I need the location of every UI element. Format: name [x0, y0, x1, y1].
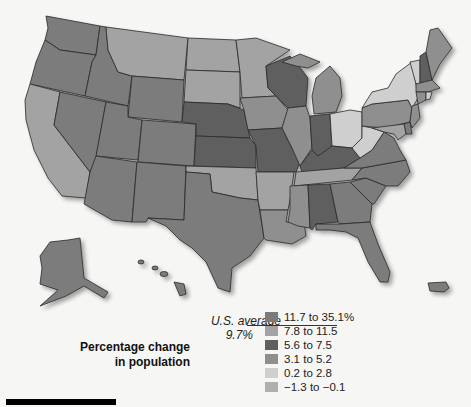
state-co [138, 120, 196, 166]
state-ak [40, 238, 108, 306]
state-fl [316, 222, 390, 282]
us-population-change-map [0, 0, 471, 407]
state-ks [194, 136, 256, 168]
state-ar [256, 172, 294, 210]
state-mt [106, 27, 188, 80]
state-wy [128, 76, 184, 122]
state-ri [426, 92, 432, 100]
state-nm [132, 162, 186, 222]
state-hi [138, 260, 186, 296]
state-ct [416, 92, 426, 104]
state-nj [410, 104, 420, 128]
state-az [84, 156, 137, 222]
state-ny [362, 62, 418, 108]
state-nd [186, 38, 240, 72]
state-pr [428, 282, 449, 292]
state-ms [288, 185, 310, 228]
